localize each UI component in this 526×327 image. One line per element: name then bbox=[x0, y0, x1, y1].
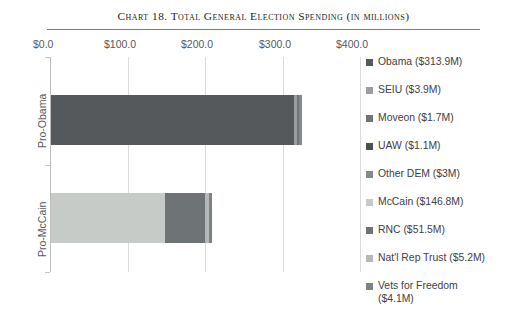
bar-segment-mccain bbox=[51, 193, 165, 243]
legend-item[interactable]: RNC ($51.5M) bbox=[366, 223, 524, 251]
legend-swatch-icon bbox=[366, 171, 373, 178]
bar-pro-mccain bbox=[51, 193, 212, 243]
x-tick-label-2: $200.0 bbox=[181, 38, 213, 50]
legend-label: RNC ($51.5M) bbox=[378, 223, 445, 236]
legend-item[interactable]: McCain ($146.8M) bbox=[366, 195, 524, 223]
x-tick-label-4: $400.0 bbox=[336, 38, 368, 50]
legend-swatch-icon bbox=[366, 143, 373, 150]
legend-swatch-icon bbox=[366, 283, 373, 290]
legend: Obama ($313.9M) SEIU ($3.9M) Moveon ($1.… bbox=[366, 55, 524, 319]
legend-item[interactable]: SEIU ($3.9M) bbox=[366, 83, 524, 111]
axis-tick-bottom bbox=[45, 272, 50, 273]
legend-item[interactable]: Vets for Freedom ($4.1M) bbox=[366, 279, 524, 319]
gridline-300 bbox=[283, 57, 284, 272]
legend-label: McCain ($146.8M) bbox=[378, 195, 463, 208]
bar-segment-vets-for-freedom bbox=[209, 193, 212, 243]
legend-label: Obama ($313.9M) bbox=[378, 55, 462, 68]
category-label-pro-mccain: Pro-McCain bbox=[36, 202, 48, 257]
bar-pro-obama bbox=[51, 95, 302, 145]
x-tick-label-3: $300.0 bbox=[259, 38, 291, 50]
chart-page: Chart 18. Total General Election Spendin… bbox=[0, 0, 526, 327]
legend-swatch-icon bbox=[366, 59, 373, 66]
legend-item[interactable]: Obama ($313.9M) bbox=[366, 55, 524, 83]
bar-segment-obama bbox=[51, 95, 294, 145]
bar-segment-rnc bbox=[165, 193, 205, 243]
legend-swatch-icon bbox=[366, 115, 373, 122]
axis-tick-top bbox=[45, 57, 50, 58]
x-tick-label-0: $0.0 bbox=[33, 38, 53, 50]
axis-tick-mid bbox=[45, 165, 50, 166]
legend-item[interactable]: Nat'l Rep Trust ($5.2M) bbox=[366, 251, 524, 279]
gridline-400 bbox=[360, 57, 361, 272]
legend-swatch-icon bbox=[366, 255, 373, 262]
bar-segment-other-dem bbox=[299, 95, 301, 145]
legend-swatch-icon bbox=[366, 199, 373, 206]
x-tick-label-1: $100.0 bbox=[104, 38, 136, 50]
legend-item[interactable]: Other DEM ($3M) bbox=[366, 167, 524, 195]
legend-item[interactable]: Moveon ($1.7M) bbox=[366, 111, 524, 139]
legend-swatch-icon bbox=[366, 227, 373, 234]
legend-label: SEIU ($3.9M) bbox=[378, 83, 441, 96]
legend-label: Other DEM ($3M) bbox=[378, 167, 460, 180]
legend-label: Moveon ($1.7M) bbox=[378, 111, 454, 124]
legend-label: Vets for Freedom ($4.1M) bbox=[378, 279, 458, 305]
legend-swatch-icon bbox=[366, 87, 373, 94]
legend-item[interactable]: UAW ($1.1M) bbox=[366, 139, 524, 167]
legend-label: UAW ($1.1M) bbox=[378, 139, 441, 152]
category-label-pro-obama: Pro-Obama bbox=[36, 94, 48, 148]
legend-label: Nat'l Rep Trust ($5.2M) bbox=[378, 251, 485, 264]
